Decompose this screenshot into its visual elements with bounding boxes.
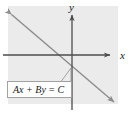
- x-axis-label: x: [119, 49, 125, 61]
- graph-canvas: Ax + By = C y x: [0, 0, 136, 115]
- y-axis-label: y: [68, 1, 74, 13]
- equation-label: Ax + By = C: [12, 84, 65, 95]
- linear-equation-figure: Ax + By = C y x: [0, 0, 136, 115]
